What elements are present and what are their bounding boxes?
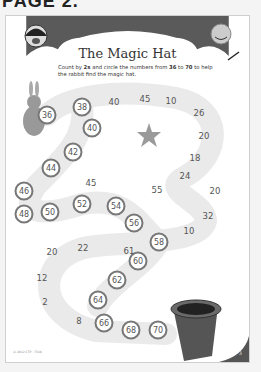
circled-number[interactable]: 66 [95, 314, 114, 333]
star-icon [137, 123, 161, 147]
magic-hat-icon [171, 300, 221, 361]
circled-number[interactable]: 62 [108, 271, 127, 290]
instructions: Count by 2s and circle the numbers from … [58, 64, 218, 78]
path-number[interactable]: 10 [166, 96, 177, 106]
worksheet-title: The Magic Hat [6, 46, 249, 61]
circled-number[interactable]: 68 [122, 321, 141, 340]
path-number[interactable]: 2 [42, 297, 47, 307]
circled-number[interactable]: 70 [149, 321, 168, 340]
path-number[interactable]: 40 [109, 97, 120, 107]
page-number: 3 [239, 350, 242, 356]
path-number[interactable]: 20 [199, 131, 210, 141]
path-number[interactable]: 8 [76, 316, 81, 326]
circled-number[interactable]: 40 [83, 119, 102, 138]
circled-number[interactable]: 64 [89, 291, 108, 310]
path-number[interactable]: 20 [210, 186, 221, 196]
circled-number[interactable]: 36 [38, 106, 57, 125]
circled-number[interactable]: 46 [15, 182, 34, 201]
circled-number[interactable]: 58 [150, 233, 169, 252]
circled-number[interactable]: 42 [64, 143, 83, 162]
path-number[interactable]: 61 [124, 246, 135, 256]
path-number[interactable]: 45 [86, 178, 97, 188]
circled-number[interactable]: 56 [125, 214, 144, 233]
worksheet-page: The Magic Hat Count by 2s and circle the… [5, 15, 250, 363]
path-number[interactable]: 55 [152, 185, 163, 195]
circled-number[interactable]: 38 [73, 98, 92, 117]
path-number[interactable]: 20 [47, 247, 58, 257]
path-number[interactable]: 10 [184, 226, 195, 236]
path-number[interactable]: 18 [190, 153, 201, 163]
circled-number[interactable]: 52 [73, 195, 92, 214]
circled-number[interactable]: 44 [42, 159, 61, 178]
path-number[interactable]: 26 [194, 108, 205, 118]
path-number[interactable]: 12 [37, 273, 48, 283]
footer-copyright: © 2012 CTP · 7318 [13, 350, 42, 354]
path-number[interactable]: 45 [140, 94, 151, 104]
circled-number[interactable]: 50 [41, 203, 60, 222]
path-number[interactable]: 32 [203, 211, 214, 221]
path-number[interactable]: 22 [78, 243, 89, 253]
circled-number[interactable]: 48 [15, 205, 34, 224]
girl-character-icon [25, 25, 47, 47]
circled-number[interactable]: 54 [107, 197, 126, 216]
page-label: PAGE 2. [2, 0, 79, 12]
path-number[interactable]: 24 [180, 171, 191, 181]
page-corner [219, 336, 249, 362]
